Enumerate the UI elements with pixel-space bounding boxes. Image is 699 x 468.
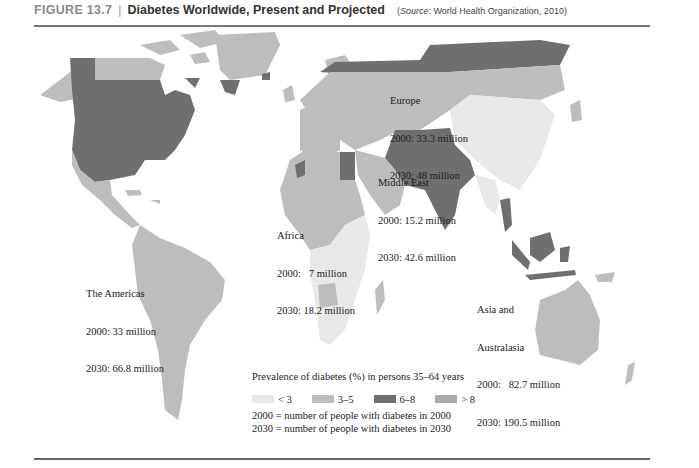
region-name: Africa — [277, 230, 355, 243]
legend-swatch — [374, 395, 396, 403]
region-se-asia — [475, 175, 500, 215]
legend-note-2000: 2000 = number of people with diabetes in… — [252, 410, 512, 423]
legend-swatch — [435, 395, 457, 403]
figure-title: Diabetes Worldwide, Present and Projecte… — [127, 3, 384, 17]
legend-item-lt3: < 3 — [252, 394, 292, 405]
region-2030-value: 2030: 42.6 million — [378, 252, 456, 265]
region-borneo — [530, 232, 555, 262]
legend-swatch — [252, 395, 274, 403]
region-2000-value: 2000: 15.2 million — [378, 215, 456, 228]
figure-header: FIGURE 13.7 | Diabetes Worldwide, Presen… — [34, 3, 650, 27]
region-canada-north — [90, 58, 165, 82]
legend-label: 6–8 — [400, 394, 416, 405]
legend-label: > 8 — [461, 394, 475, 405]
legend-swatches: < 3 3–5 6–8 > 8 — [252, 392, 512, 406]
map-legend: Prevalence of diabetes (%) in persons 35… — [252, 371, 512, 435]
source-prefix: Source: — [400, 6, 431, 16]
legend-note-2030: 2030 = number of people with diabetes in… — [252, 423, 512, 436]
figure-source: (Source: World Health Organization, 2010… — [397, 6, 567, 16]
region-name: Middle East — [378, 177, 456, 190]
region-2000-value: 2000: 33.3 million — [390, 133, 468, 146]
region-name: Europe — [390, 95, 468, 108]
region-2030-value: 2030: 18.2 million — [277, 305, 355, 318]
figure-label: FIGURE 13.7 — [34, 3, 112, 17]
legend-title: Prevalence of diabetes (%) in persons 35… — [252, 371, 512, 382]
legend-swatch — [312, 395, 334, 403]
footer-rule — [34, 458, 650, 460]
region-name-line1: Asia and — [477, 304, 560, 317]
source-text: World Health Organization, 2010 — [433, 6, 563, 16]
legend-label: < 3 — [278, 394, 292, 405]
region-2030-value: 2030: 66.8 million — [86, 363, 164, 376]
region-label-middle-east: Middle East 2000: 15.2 million 2030: 42.… — [378, 152, 456, 277]
figure-separator: | — [118, 3, 121, 17]
region-label-americas: The Americas 2000: 33 million 2030: 66.8… — [86, 263, 164, 388]
region-2000-value: 2000: 33 million — [86, 326, 164, 339]
legend-item-6-8: 6–8 — [374, 394, 416, 405]
legend-label: 3–5 — [338, 394, 354, 405]
region-name: The Americas — [86, 288, 164, 301]
region-name-line2: Australasia — [477, 342, 560, 355]
region-2000-value: 2000: 7 million — [277, 268, 355, 281]
legend-item-3-5: 3–5 — [312, 394, 354, 405]
region-greenland — [215, 32, 280, 80]
legend-item-gt8: > 8 — [435, 394, 475, 405]
region-label-africa: Africa 2000: 7 million 2030: 18.2 millio… — [277, 205, 355, 330]
